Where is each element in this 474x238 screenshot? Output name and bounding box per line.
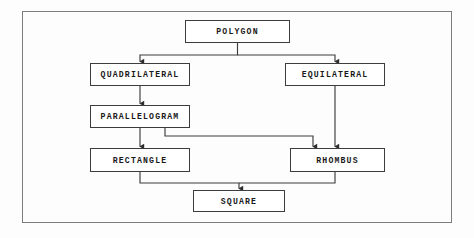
node-equilateral-label: EQUILATERAL	[302, 70, 369, 79]
node-parallelogram[interactable]: PARALLELOGRAM	[90, 105, 190, 128]
node-rectangle-label: RECTANGLE	[113, 155, 168, 164]
node-quadrilateral[interactable]: QUADRILATERAL	[90, 63, 190, 86]
node-polygon-label: POLYGON	[216, 27, 258, 36]
node-parallelogram-label: PARALLELOGRAM	[101, 112, 180, 121]
node-rhombus-label: RHOMBUS	[316, 155, 358, 164]
node-rectangle[interactable]: RECTANGLE	[90, 148, 190, 172]
node-square-label: SQUARE	[221, 196, 257, 205]
node-square[interactable]: SQUARE	[193, 190, 285, 212]
node-polygon[interactable]: POLYGON	[185, 20, 290, 43]
node-equilateral[interactable]: EQUILATERAL	[285, 63, 385, 86]
node-quadrilateral-label: QUADRILATERAL	[101, 70, 180, 79]
node-rhombus[interactable]: RHOMBUS	[290, 148, 385, 172]
diagram-screenshot: POLYGON QUADRILATERAL EQUILATERAL PARALL…	[0, 0, 474, 238]
